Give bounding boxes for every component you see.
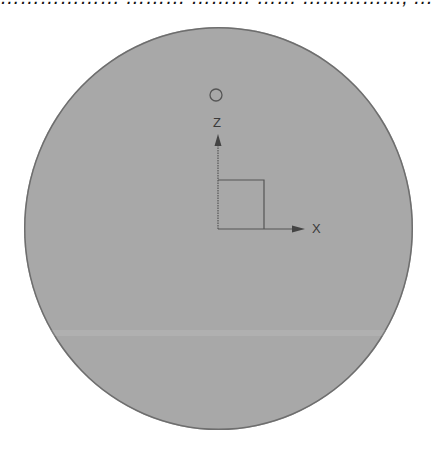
z-axis-label: Z	[213, 116, 221, 129]
circle-outline-icon[interactable]	[210, 89, 222, 101]
square-outline-icon	[218, 180, 264, 229]
axis-gizmo	[0, 0, 432, 451]
x-axis-label: X	[312, 222, 321, 235]
z-axis-arrow-icon	[215, 134, 222, 146]
x-axis-arrow-icon	[292, 226, 305, 233]
